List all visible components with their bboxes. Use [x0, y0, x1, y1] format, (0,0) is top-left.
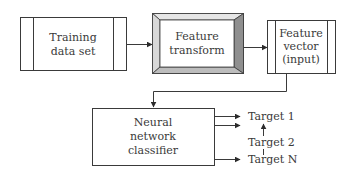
- diagram-canvas: Training data set Feature transform Feat…: [0, 0, 351, 183]
- transform-label-line2: transform: [169, 44, 225, 57]
- neural-network-classifier-node: Neural network classifier: [93, 109, 215, 166]
- classifier-label-line3: classifier: [128, 144, 179, 157]
- training-label-line2: data set: [51, 45, 96, 58]
- vector-label-line1: Feature: [279, 27, 322, 40]
- target-2-label: Target 2: [248, 136, 295, 149]
- feature-transform-node: Feature transform: [153, 14, 244, 74]
- feature-vector-node: Feature vector (input): [268, 21, 336, 74]
- transform-label-line1: Feature: [175, 30, 218, 43]
- classifier-label-line2: network: [130, 130, 176, 143]
- vector-label-line2: vector: [282, 40, 319, 53]
- classifier-label-line1: Neural: [134, 116, 173, 129]
- vector-label-line3: (input): [282, 53, 320, 66]
- target-n-label: Target N: [248, 153, 298, 166]
- training-data-set-node: Training data set: [21, 18, 127, 71]
- target-1-label: Target 1: [248, 110, 295, 123]
- arrow-vector-to-classifier: [154, 74, 287, 108]
- training-label-line1: Training: [49, 31, 96, 44]
